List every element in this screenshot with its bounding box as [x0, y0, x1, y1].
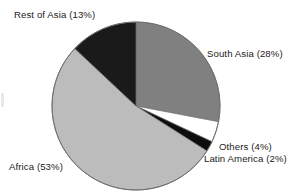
slice-label-africa: Africa (53%): [9, 161, 63, 172]
pie-slice-south-asia: [136, 22, 220, 122]
slice-label-latin-america: Latin America (2%): [204, 153, 287, 164]
slice-label-others: Others (4%): [219, 141, 272, 152]
slice-label-rest-of-asia: Rest of Asia (13%): [14, 9, 95, 20]
pie-slices-group: [52, 22, 220, 190]
pie-chart-figure: Rest of Asia (13%) South Asia (28%) Othe…: [0, 0, 307, 195]
slice-label-south-asia: South Asia (28%): [207, 48, 283, 59]
